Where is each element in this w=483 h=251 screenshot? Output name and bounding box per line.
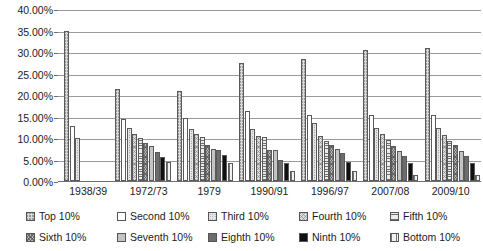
legend-swatch-icon [117, 212, 126, 221]
x-tick-label: 2007/08 [360, 184, 420, 200]
legend-item[interactable]: Bottom 10% [390, 232, 481, 243]
legend-label: Fourth 10% [312, 211, 366, 222]
legend-label: Bottom 10% [403, 232, 460, 243]
bar [340, 153, 345, 181]
bar [121, 119, 126, 181]
y-tick-mark [54, 161, 58, 162]
legend-swatch-icon [208, 233, 217, 242]
bar [278, 160, 283, 182]
bar [464, 156, 469, 181]
bar [442, 135, 447, 181]
bar [200, 137, 205, 181]
legend-swatch-icon [26, 212, 35, 221]
legend-label: Third 10% [221, 211, 269, 222]
bar [374, 128, 379, 181]
bar [222, 155, 227, 181]
bar [138, 138, 143, 181]
y-tick-label: 5.00% [23, 156, 53, 166]
legend-row-1: Top 10%Second 10%Third 10%Fourth 10%Fift… [0, 206, 483, 227]
bar [216, 150, 221, 181]
y-tick-label: 25.00% [17, 70, 53, 80]
bar [329, 145, 334, 181]
bar [459, 151, 464, 181]
legend-swatch-icon [208, 212, 217, 221]
legend-item[interactable]: Third 10% [208, 211, 299, 222]
legend-swatch-icon [299, 212, 308, 221]
bar [425, 48, 430, 181]
legend-label: Fifth 10% [403, 211, 447, 222]
bar [75, 138, 80, 181]
bar [447, 141, 452, 181]
bar-group [58, 10, 109, 181]
bar [408, 163, 413, 181]
bar [453, 145, 458, 181]
bar [183, 118, 188, 181]
bar [211, 149, 216, 181]
bar [250, 129, 255, 181]
bar [205, 145, 210, 181]
bar [143, 143, 148, 181]
y-tick-label: 15.00% [17, 113, 53, 123]
bar-group [419, 10, 481, 181]
y-tick-mark [54, 53, 58, 54]
bar-group [171, 10, 233, 181]
bar [391, 146, 396, 181]
y-tick-mark [54, 32, 58, 33]
bar [307, 115, 312, 181]
bar [386, 140, 391, 181]
y-tick-mark [54, 139, 58, 140]
bar [380, 134, 385, 181]
bar [470, 163, 475, 181]
bar [402, 156, 407, 181]
legend-item[interactable]: Seventh 10% [117, 232, 208, 243]
bar [155, 152, 160, 181]
bar [177, 91, 182, 181]
bar [149, 146, 154, 181]
legend-label: Top 10% [39, 211, 80, 222]
bar-group [233, 10, 295, 181]
bar [436, 128, 441, 181]
y-axis: 0.00%5.00%10.00%15.00%20.00%25.00%30.00%… [0, 10, 56, 182]
bar [70, 126, 75, 181]
legend-item[interactable]: Ninth 10% [299, 232, 390, 243]
bar [267, 150, 272, 181]
bar [127, 128, 132, 181]
legend-item[interactable]: Top 10% [26, 211, 117, 222]
x-tick-label: 1979 [179, 184, 239, 200]
bar [318, 136, 323, 181]
bar [352, 171, 357, 181]
y-tick-mark [54, 75, 58, 76]
bar [64, 31, 69, 182]
legend-label: Ninth 10% [312, 232, 360, 243]
legend-label: Second 10% [130, 211, 190, 222]
y-tick-mark [54, 10, 58, 11]
bar [245, 111, 250, 181]
y-tick-mark [54, 182, 58, 183]
legend-item[interactable]: Second 10% [117, 211, 208, 222]
legend-swatch-icon [299, 233, 308, 242]
x-axis-categories: 1938/391972/7319791990/911996/972007/082… [58, 184, 481, 200]
bar [194, 134, 199, 181]
legend-item[interactable]: Sixth 10% [26, 232, 117, 243]
x-tick-label: 1990/91 [239, 184, 299, 200]
bar [239, 63, 244, 181]
legend-item[interactable]: Fourth 10% [299, 211, 390, 222]
x-tick-label: 1938/39 [58, 184, 118, 200]
legend-swatch-icon [390, 212, 399, 221]
legend-item[interactable]: Fifth 10% [390, 211, 481, 222]
y-tick-label: 30.00% [17, 48, 53, 58]
x-tick-label: 1972/73 [118, 184, 178, 200]
x-axis-line [58, 181, 481, 182]
bar [189, 129, 194, 181]
legend-label: Seventh 10% [130, 232, 192, 243]
plot-area [58, 10, 481, 182]
bar [335, 149, 340, 181]
legend-label: Sixth 10% [39, 232, 86, 243]
bar [363, 50, 368, 181]
bar [115, 89, 120, 181]
legend-item[interactable]: Eighth 10% [208, 232, 299, 243]
bar [346, 162, 351, 181]
bar [312, 123, 317, 181]
bar-chart: 0.00%5.00%10.00%15.00%20.00%25.00%30.00%… [0, 0, 483, 251]
y-tick-label: 35.00% [17, 27, 53, 37]
